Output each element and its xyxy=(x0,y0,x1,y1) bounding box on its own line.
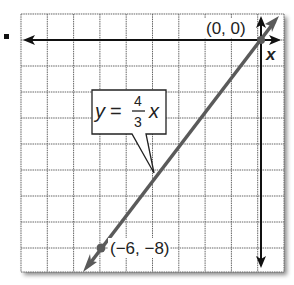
label-neg6-neg8: (−6, −8) xyxy=(110,239,170,258)
x-axis-label: x xyxy=(265,45,277,64)
label-origin: (0, 0) xyxy=(206,19,246,38)
bullet-icon xyxy=(4,34,9,39)
eq-lhs: y xyxy=(93,100,106,122)
eq-denominator: 3 xyxy=(134,114,142,130)
eq-equals: = xyxy=(110,100,122,122)
eq-numerator: 4 xyxy=(134,93,142,109)
point-neg6-neg8 xyxy=(97,244,106,253)
point-origin xyxy=(257,36,265,44)
eq-var: x xyxy=(148,100,160,122)
coordinate-graph: (0, 0) (−6, −8) x y = 4 3 x xyxy=(0,0,294,285)
